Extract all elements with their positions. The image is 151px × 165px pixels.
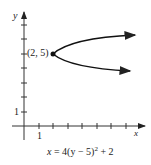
- parabola-upper-branch: [53, 35, 135, 54]
- graph-canvas: [0, 0, 151, 165]
- equation-label: x = 4(y − 5)2 + 2: [47, 146, 114, 157]
- parabola-lower-branch: [53, 54, 130, 71]
- x-axis-label: x: [134, 129, 138, 138]
- vertex-point: [51, 52, 56, 57]
- x-tick-label-1: 1: [37, 131, 42, 141]
- y-tick-label-1: 1: [14, 107, 19, 117]
- vertex-label: (2, 5): [27, 48, 49, 58]
- equation-rhs: = 4(y − 5): [51, 146, 94, 157]
- equation-tail: + 2: [98, 146, 114, 157]
- y-axis-label: y: [13, 11, 17, 21]
